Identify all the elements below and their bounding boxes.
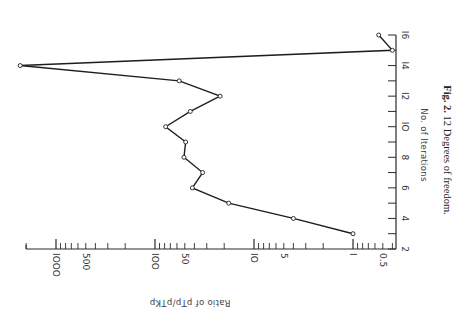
iteration-tick-label: 2 bbox=[400, 246, 410, 252]
data-point-marker bbox=[218, 94, 222, 98]
data-point-marker bbox=[351, 232, 355, 236]
data-point-marker bbox=[164, 125, 168, 129]
data-point-marker bbox=[188, 109, 192, 113]
chart: 0.5I5IO50IOO500IOOO2468IOI2I4I6Ratio of … bbox=[0, 0, 456, 313]
data-point-marker bbox=[184, 140, 188, 144]
plot-line bbox=[18, 33, 394, 236]
data-point-marker bbox=[201, 171, 205, 175]
iteration-tick-label: IO bbox=[400, 122, 410, 132]
ratio-tick-label: I bbox=[348, 253, 358, 256]
ratio-tick-label: IOO bbox=[150, 253, 160, 270]
iteration-tick-label: I6 bbox=[400, 31, 410, 40]
ratio-axis-title: Ratio of pTp/pTKp bbox=[150, 298, 231, 308]
figure-caption: Fig. 2. 12 Degrees of freedom. bbox=[442, 85, 453, 214]
data-point-marker bbox=[190, 186, 194, 190]
iteration-tick-label: 8 bbox=[400, 154, 410, 160]
iteration-tick-label: I2 bbox=[400, 92, 410, 100]
ratio-tick-label: 500 bbox=[81, 253, 91, 270]
axes bbox=[26, 35, 396, 249]
caption-text: 12 Degrees of freedom. bbox=[442, 116, 453, 215]
ratio-tick-label: IO bbox=[249, 253, 259, 263]
ratio-tick-label: 5 bbox=[279, 253, 289, 259]
ratio-tick-label: 50 bbox=[180, 253, 190, 265]
ratio-tick-label: IOOO bbox=[51, 253, 61, 277]
iteration-tick-label: I4 bbox=[400, 61, 410, 70]
data-point-marker bbox=[390, 48, 394, 52]
labels: 0.5I5IO50IOO500IOOO2468IOI2I4I6Ratio of … bbox=[51, 31, 453, 308]
data-point-marker bbox=[291, 216, 295, 220]
iteration-axis-title: No. of Iterations bbox=[419, 108, 429, 182]
ratio-tick-label: 0.5 bbox=[378, 253, 388, 267]
iteration-tick-label: 4 bbox=[400, 216, 410, 222]
ratio-series-line bbox=[20, 35, 392, 234]
data-point-marker bbox=[227, 201, 231, 205]
caption-label: Fig. 2. bbox=[442, 85, 453, 115]
iteration-tick-label: 6 bbox=[400, 185, 410, 191]
data-point-marker bbox=[177, 79, 181, 83]
data-point-marker bbox=[377, 33, 381, 37]
data-point-marker bbox=[18, 64, 22, 68]
data-point-marker bbox=[182, 155, 186, 159]
